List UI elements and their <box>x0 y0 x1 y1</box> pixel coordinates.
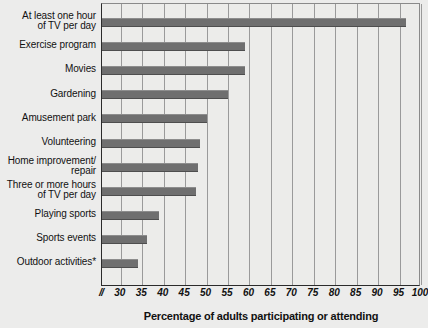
x-axis-tick-30: 30 <box>114 287 125 298</box>
x-axis: // 3035404550556065707580859095100 <box>101 287 421 305</box>
x-axis-tick-50: 50 <box>200 287 211 298</box>
gridline-70 <box>292 4 293 285</box>
x-axis-tick-80: 80 <box>329 287 340 298</box>
x-axis-tick-95: 95 <box>393 287 404 298</box>
x-axis-tick-35: 35 <box>136 287 147 298</box>
category-label: Gardening <box>0 89 96 100</box>
x-axis-tick-100: 100 <box>412 287 428 298</box>
bar <box>102 259 138 268</box>
category-label: At least one hour of TV per day <box>0 11 96 32</box>
axis-break-icon: // <box>99 286 103 298</box>
gridline-80 <box>335 4 336 285</box>
bar <box>102 42 245 51</box>
bar <box>102 187 196 196</box>
x-axis-tick-60: 60 <box>243 287 254 298</box>
gridline-90 <box>378 4 379 285</box>
category-label: Volunteering <box>0 137 96 148</box>
x-axis-tick-45: 45 <box>179 287 190 298</box>
x-axis-title: Percentage of adults participating or at… <box>101 310 421 322</box>
x-axis-tick-85: 85 <box>350 287 361 298</box>
category-label: Outdoor activities* <box>0 257 96 268</box>
gridline-75 <box>314 4 315 285</box>
plot-area <box>101 3 420 286</box>
x-axis-tick-65: 65 <box>264 287 275 298</box>
gridline-60 <box>249 4 250 285</box>
category-label: Three or more hours of TV per day <box>0 180 96 201</box>
x-axis-tick-75: 75 <box>307 287 318 298</box>
x-axis-tick-90: 90 <box>372 287 383 298</box>
x-axis-tick-70: 70 <box>286 287 297 298</box>
category-label: Home improvement/ repair <box>0 156 96 177</box>
bar <box>102 163 198 172</box>
category-label: Exercise program <box>0 40 96 51</box>
gridline-85 <box>357 4 358 285</box>
x-axis-tick-55: 55 <box>221 287 232 298</box>
category-label: Playing sports <box>0 209 96 220</box>
gridline-95 <box>400 4 401 285</box>
bar <box>102 139 200 148</box>
bar <box>102 90 228 99</box>
bar <box>102 235 147 244</box>
gridline-65 <box>271 4 272 285</box>
bar <box>102 211 159 220</box>
category-label: Movies <box>0 64 96 75</box>
x-axis-tick-40: 40 <box>157 287 168 298</box>
category-label: Sports events <box>0 233 96 244</box>
bar <box>102 66 245 75</box>
gridline-100 <box>421 4 422 285</box>
category-label-list: At least one hour of TV per dayExercise … <box>0 0 99 285</box>
bar <box>102 18 406 27</box>
category-label: Amusement park <box>0 113 96 124</box>
bar <box>102 114 207 123</box>
